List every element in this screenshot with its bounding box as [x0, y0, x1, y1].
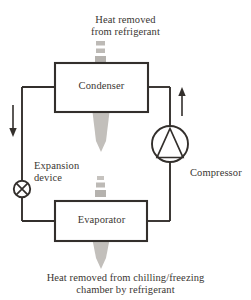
evaporator-label: Evaporator: [55, 214, 148, 226]
heat-dash-bottom-3: [95, 190, 106, 197]
evaporator-heat-arrow-body: [93, 240, 110, 269]
condenser-heat-arrow-body: [93, 112, 110, 152]
heat-removed-bottom-label: Heat removed from chilling/freezing cham…: [0, 272, 251, 297]
heat-removed-top-label: Heat removed from refrigerant: [0, 14, 251, 39]
expansion-device-label: Expansion device: [34, 160, 114, 185]
right-flow-arrow: [178, 87, 185, 116]
left-flow-arrow: [9, 105, 16, 137]
condenser-label: Condenser: [55, 80, 148, 92]
compressor-label: Compressor: [190, 167, 251, 179]
expansion-device-symbol: [14, 181, 30, 197]
left-flow-arrow-head: [9, 128, 16, 137]
diagram-canvas: [0, 0, 251, 300]
heat-dash-top-1: [96, 41, 105, 46]
heat-dash-top-2: [96, 49, 105, 54]
compressor-symbol: [152, 126, 188, 162]
right-flow-arrow-head: [178, 87, 185, 96]
refrigeration-cycle-diagram: Heat removed from refrigerant Condenser …: [0, 0, 251, 300]
